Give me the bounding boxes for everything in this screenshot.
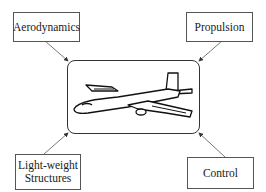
node-control: Control: [187, 157, 254, 189]
node-aerodynamics: Aerodynamics: [13, 12, 80, 42]
arrow-structures: [44, 133, 68, 154]
node-propulsion-label: Propulsion: [195, 21, 245, 34]
node-propulsion: Propulsion: [186, 12, 253, 42]
airplane-panel: [67, 60, 200, 134]
arrow-aerodynamics: [45, 41, 68, 61]
node-control-label: Control: [203, 167, 238, 180]
node-structures-label-line1: Light-weight: [18, 159, 78, 172]
node-structures-label-line2: Structures: [25, 172, 72, 185]
arrow-propulsion: [199, 41, 222, 61]
node-structures: Light-weight Structures: [15, 154, 81, 190]
airplane-icon: [68, 61, 199, 133]
node-aerodynamics-label: Aerodynamics: [13, 21, 80, 34]
arrow-control: [199, 133, 225, 157]
